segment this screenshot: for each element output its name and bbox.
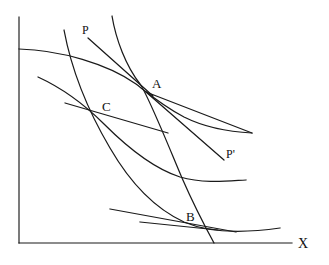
indifference-curve-upper [19, 49, 252, 133]
indifference-curves-group [19, 30, 280, 231]
budget-line-through-a-flat [146, 92, 252, 133]
curve-label-p: P [82, 23, 89, 37]
x-axis-label: X [298, 236, 308, 251]
axis-labels-group: X [298, 236, 308, 251]
figure-container: A C B P P' X [0, 0, 329, 265]
budget-line-through-b [110, 209, 236, 232]
economics-diagram-canvas: A C B P P' X [0, 0, 329, 265]
point-label-b: B [186, 209, 195, 224]
curve-label-p-prime: P' [226, 147, 235, 161]
point-label-c: C [102, 99, 111, 114]
budget-lines-group [65, 38, 252, 232]
point-labels-group: A C B [102, 76, 195, 224]
indifference-curve-middle [38, 77, 246, 182]
budget-line-a-to-pprime [146, 92, 224, 160]
point-label-a: A [152, 76, 162, 91]
